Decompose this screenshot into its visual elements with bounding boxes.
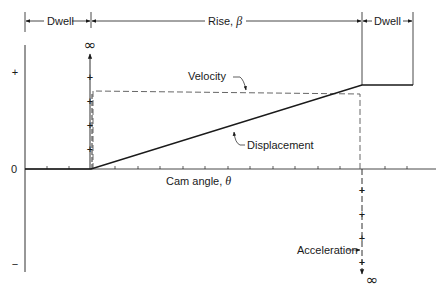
- velocity-label: Velocity: [188, 70, 226, 82]
- svg-text:+: +: [359, 256, 365, 268]
- y-minus-label: −: [12, 258, 18, 270]
- svg-text:+: +: [87, 95, 93, 107]
- svg-text:+: +: [359, 208, 365, 220]
- velocity-curve: [93, 91, 360, 169]
- infinity-bottom: ∞: [366, 271, 379, 289]
- svg-text:+: +: [87, 119, 93, 131]
- x-axis-label: Cam angle, θ: [166, 174, 231, 188]
- svg-text:+: +: [359, 184, 365, 196]
- displacement-curve: [25, 85, 413, 169]
- svg-text:+: +: [87, 71, 93, 83]
- displacement-leader: [234, 132, 245, 145]
- svg-text:+: +: [359, 232, 365, 244]
- y-zero-label: 0: [11, 163, 17, 175]
- dwell-right-label: Dwell: [374, 15, 401, 27]
- dwell-left-label: Dwell: [47, 15, 74, 27]
- infinity-top: ∞: [84, 36, 97, 54]
- cam-diagram: Dwell Rise, β Dwell + 0 − Cam angle, θ: [0, 0, 436, 290]
- y-plus-label: +: [12, 66, 18, 78]
- svg-text:+: +: [87, 143, 93, 155]
- velocity-leader: [233, 77, 246, 90]
- rise-label: Rise, β: [208, 14, 242, 28]
- displacement-label: Displacement: [247, 139, 314, 151]
